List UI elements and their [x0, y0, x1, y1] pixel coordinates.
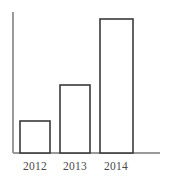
bar-chart: 2012 2013 2014 [0, 0, 173, 182]
bar-2014[interactable] [100, 19, 133, 153]
bar-2013[interactable] [60, 85, 90, 153]
x-tick-label-2014: 2014 [104, 160, 128, 172]
bar-2012[interactable] [20, 121, 50, 153]
chart-plot-area: 2012 2013 2014 [0, 0, 173, 182]
x-tick-label-2012: 2012 [23, 160, 47, 172]
x-tick-label-2013: 2013 [63, 160, 87, 172]
